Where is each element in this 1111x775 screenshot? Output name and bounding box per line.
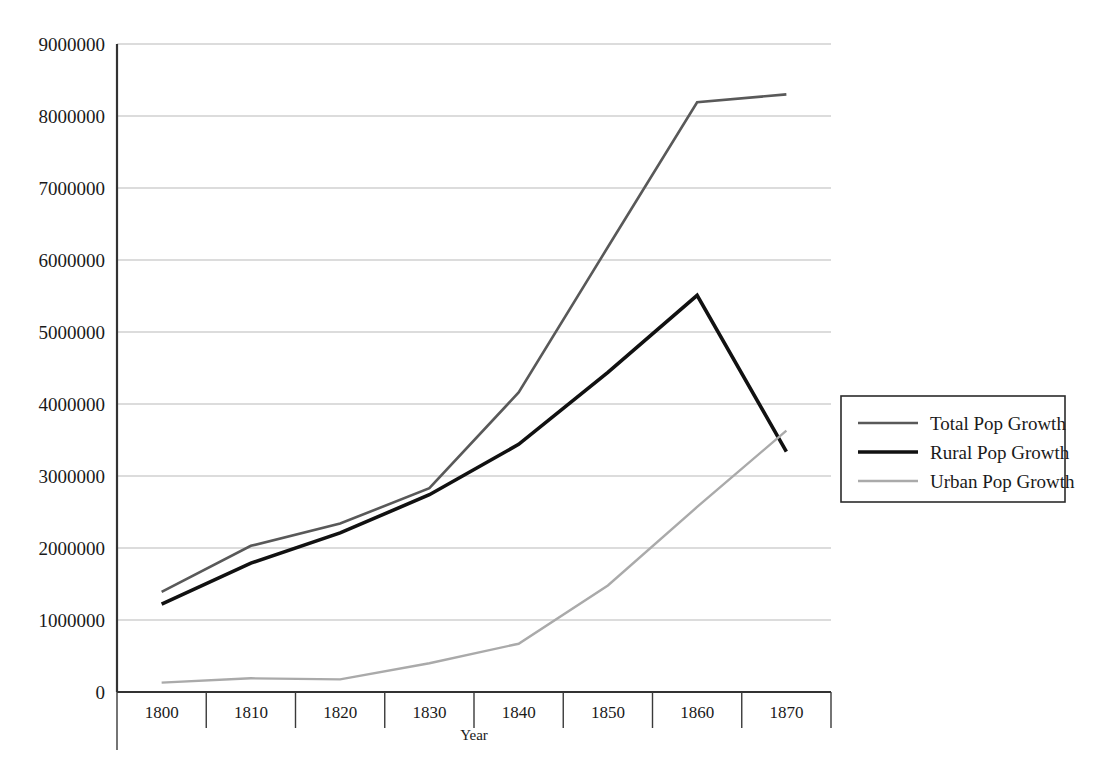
y-axis-tick-label: 3000000 bbox=[39, 466, 106, 487]
legend-label-0: Total Pop Growth bbox=[930, 413, 1066, 434]
chart-canvas: 9000000800000070000006000000500000040000… bbox=[0, 0, 1111, 775]
x-axis-tick-label: 1840 bbox=[502, 703, 536, 722]
y-axis-tick-label: 9000000 bbox=[39, 34, 106, 55]
x-axis-tick-label: 1830 bbox=[412, 703, 446, 722]
chart-legend: Total Pop GrowthRural Pop GrowthUrban Po… bbox=[841, 396, 1075, 502]
y-axis-tick-label: 2000000 bbox=[39, 538, 106, 559]
y-axis-tick-labels: 9000000800000070000006000000500000040000… bbox=[39, 34, 106, 703]
x-axis-tick-label: 1860 bbox=[680, 703, 714, 722]
series-line-0 bbox=[162, 94, 787, 592]
y-axis-tick-label: 5000000 bbox=[39, 322, 106, 343]
y-axis-tick-label: 1000000 bbox=[39, 610, 106, 631]
legend-label-2: Urban Pop Growth bbox=[930, 471, 1075, 492]
gridlines bbox=[117, 44, 831, 620]
y-axis-tick-label: 7000000 bbox=[39, 178, 106, 199]
legend-label-1: Rural Pop Growth bbox=[930, 442, 1070, 463]
x-axis-tick-label: 1870 bbox=[769, 703, 803, 722]
y-axis-tick-label: 4000000 bbox=[39, 394, 106, 415]
x-axis-tick-label: 1800 bbox=[145, 703, 179, 722]
y-axis-tick-label: 8000000 bbox=[39, 106, 106, 127]
series-line-1 bbox=[162, 295, 787, 604]
y-axis-tick-label: 6000000 bbox=[39, 250, 106, 271]
x-axis-title: Year bbox=[460, 727, 488, 743]
data-series bbox=[162, 94, 787, 682]
x-axis-tick-label: 1810 bbox=[234, 703, 268, 722]
x-axis-tick-label: 1820 bbox=[323, 703, 357, 722]
y-axis-tick-label: 0 bbox=[96, 682, 106, 703]
population-growth-chart: 9000000800000070000006000000500000040000… bbox=[0, 0, 1111, 775]
x-axis-tick-label: 1850 bbox=[591, 703, 625, 722]
